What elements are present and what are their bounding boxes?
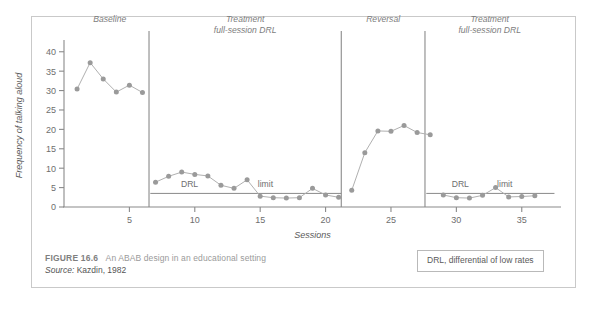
figure-caption: FIGURE 16.6 An ABAB design in an educati… <box>45 252 375 277</box>
y-axis-title: Frequency of talking aloud <box>14 72 24 179</box>
legend-note-text: DRL, differential of low rates <box>427 255 534 265</box>
caption-title: An ABAB design in an educational setting <box>106 253 266 263</box>
source-text: Kazdin, 1982 <box>74 265 126 275</box>
figure-number: FIGURE 16.6 <box>45 253 98 263</box>
source-label: Source: <box>45 265 74 275</box>
figure-frame <box>31 16 576 288</box>
caption-title-spacer <box>98 253 105 263</box>
legend-note-box: DRL, differential of low rates <box>417 250 544 272</box>
caption-line-2: Source: Kazdin, 1982 <box>45 264 375 277</box>
caption-line-1: FIGURE 16.6 An ABAB design in an educati… <box>45 252 375 264</box>
figure-page: 0510152025303540Frequency of talking alo… <box>0 0 606 314</box>
